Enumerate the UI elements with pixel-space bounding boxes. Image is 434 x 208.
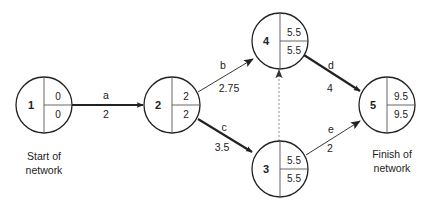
node-3-id: 3 (263, 163, 269, 175)
edge-c: c 3.5 (198, 119, 252, 153)
edge-e-duration: 2 (327, 142, 333, 154)
node-2-id: 2 (155, 99, 161, 111)
start-caption-line2: network (26, 164, 64, 176)
node-3-earliest: 5.5 (287, 155, 301, 166)
node-1-earliest: 0 (55, 91, 61, 102)
network-diagram: a 2 b 2.75 c 3.5 d 4 e 2 1 0 0 2 2 (0, 0, 434, 208)
node-4-latest: 5.5 (287, 45, 301, 56)
node-1-latest: 0 (55, 109, 61, 120)
finish-caption: Finish of network (372, 148, 412, 174)
edge-d-activity: d (328, 59, 334, 71)
node-2-earliest: 2 (183, 91, 189, 102)
edge-a-duration: 2 (103, 108, 109, 120)
edge-c-activity: c (221, 121, 226, 133)
node-2: 2 2 2 (144, 77, 200, 133)
node-4-id: 4 (263, 35, 270, 47)
node-3: 3 5.5 5.5 (252, 141, 308, 197)
node-5: 5 9.5 9.5 (359, 77, 415, 133)
start-caption: Start of network (26, 150, 64, 176)
start-caption-line1: Start of (27, 150, 61, 162)
edge-d-duration: 4 (327, 82, 333, 94)
edge-b-duration: 2.75 (219, 82, 240, 94)
node-4: 4 5.5 5.5 (252, 13, 308, 69)
node-2-latest: 2 (183, 109, 189, 120)
finish-caption-line2: network (374, 162, 412, 174)
node-4-earliest: 5.5 (287, 27, 301, 38)
edge-b-activity: b (220, 59, 226, 71)
finish-caption-line1: Finish of (372, 148, 412, 160)
node-1-id: 1 (28, 99, 34, 111)
edge-d: d 4 (304, 55, 360, 94)
node-3-latest: 5.5 (287, 173, 301, 184)
node-5-id: 5 (370, 99, 376, 111)
edge-e: e 2 (306, 121, 360, 155)
node-1: 1 0 0 (16, 77, 72, 133)
edge-c-duration: 3.5 (215, 141, 230, 153)
edge-b: b 2.75 (198, 59, 253, 94)
node-5-latest: 9.5 (394, 109, 408, 120)
edge-a: a 2 (72, 89, 143, 120)
edge-e-activity: e (328, 123, 334, 135)
node-5-earliest: 9.5 (394, 91, 408, 102)
edge-a-activity: a (103, 89, 109, 101)
